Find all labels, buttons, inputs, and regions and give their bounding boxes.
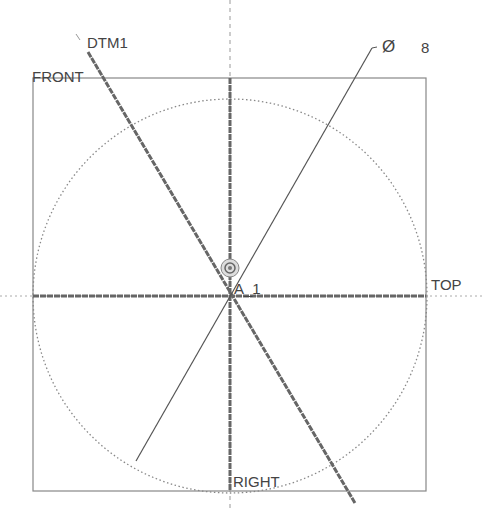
- dimension-leader: [372, 47, 377, 48]
- datum-label-right[interactable]: RIGHT: [233, 474, 280, 489]
- sketch-diagonal-line[interactable]: [136, 48, 372, 461]
- dimension-diameter-symbol: Ø: [382, 38, 395, 55]
- datum-dtm1-tail: [76, 34, 80, 40]
- datum-dtm1-line[interactable]: [88, 52, 355, 503]
- datum-label-dtm1[interactable]: DTM1: [87, 35, 128, 50]
- axis-label-a1[interactable]: A_1: [234, 281, 261, 296]
- datum-label-front[interactable]: FRONT: [32, 69, 84, 84]
- axis-marker-center: [228, 266, 232, 270]
- datum-label-top[interactable]: TOP: [431, 277, 462, 292]
- dimension-value[interactable]: 8: [421, 40, 429, 55]
